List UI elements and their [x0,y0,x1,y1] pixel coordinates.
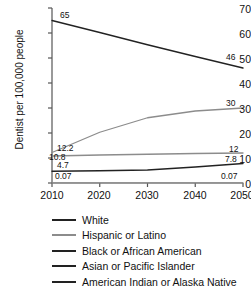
x-tick-label-2030: 2030 [130,190,164,201]
x-axis-ticks [52,183,243,187]
legend-item-0: White [52,212,251,228]
legend-swatch-icon [52,219,76,221]
legend-item-label: Black or African American [82,245,202,257]
x-tick-label-2050: 2050 [225,190,251,201]
legend-item-1: Hispanic or Latino [52,228,251,244]
chart-legend: WhiteHispanic or LatinoBlack or African … [52,212,251,290]
data-label-white-end: 46 [226,53,235,62]
y-tick-label-20: 20 [225,129,251,140]
legend-item-3: Asian or Pacific Islander [52,259,251,275]
y-tick-label-70: 70 [225,4,251,15]
x-tick-label-2020: 2020 [82,190,116,201]
legend-item-4: American Indian or Alaska Native [52,274,251,290]
legend-item-label: Asian or Pacific Islander [82,260,195,272]
series-lines [52,21,243,183]
y-tick-label-40: 40 [225,79,251,90]
legend-swatch-icon [52,250,76,252]
legend-item-label: American Indian or Alaska Native [82,276,237,288]
x-tick-label-2010: 2010 [35,190,69,201]
data-label-white-start: 65 [60,11,69,20]
legend-item-label: White [82,214,109,226]
legend-item-label: Hispanic or Latino [82,229,166,241]
data-label-asian-end: 7.8 [225,155,237,164]
data-label-hispanic-end: 30 [226,99,235,108]
legend-swatch-icon [52,265,76,267]
data-label-aian-start: 0.07 [55,172,72,181]
data-label-black-end: 12 [229,145,238,154]
y-tick-label-60: 60 [225,29,251,40]
chart-figure: Dentist per 100,000 people 70 60 50 40 3… [0,0,251,292]
data-label-asian-start: 4.7 [57,161,69,170]
x-tick-label-2040: 2040 [178,190,212,201]
data-label-aian-end: 0.07 [221,172,238,181]
legend-swatch-icon [52,281,76,283]
legend-swatch-icon [52,234,76,236]
legend-item-2: Black or African American [52,243,251,259]
